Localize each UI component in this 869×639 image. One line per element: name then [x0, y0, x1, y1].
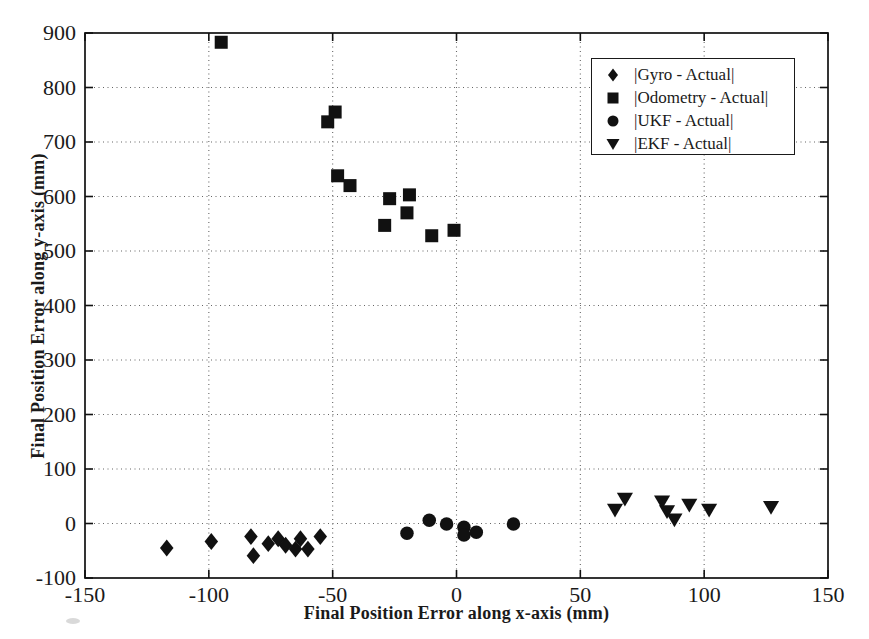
ekf-point [701, 504, 717, 518]
y-tick-label: 800 [43, 75, 76, 100]
gyro-point [160, 540, 174, 557]
figure: -150-100-50050100150-1000100200300400500… [0, 0, 869, 639]
y-tick-label: 0 [65, 511, 76, 536]
odometry-point [215, 36, 228, 49]
odometry-point [329, 106, 342, 119]
legend-label: |UKF - Actual| [634, 111, 733, 131]
legend-item-ukf: |UKF - Actual| [605, 109, 794, 132]
legend-label: |Odometry - Actual| [634, 88, 768, 108]
y-tick-label: 100 [43, 456, 76, 481]
triangle-down-marker-icon [605, 136, 621, 152]
odometry-point [448, 224, 461, 237]
gyro-point [244, 528, 258, 545]
odometry-point [403, 188, 416, 201]
legend-label: |EKF - Actual| [634, 134, 731, 154]
odometry-point [331, 169, 344, 182]
x-axis-label: Final Position Error along x-axis (mm) [85, 603, 828, 624]
series-gyro [160, 528, 327, 564]
legend-item-gyro: |Gyro - Actual| [605, 63, 794, 86]
odometry-point [383, 192, 396, 205]
series-odometry [215, 36, 461, 242]
ukf-point [457, 528, 471, 542]
series-ekf [607, 493, 779, 527]
ukf-point [470, 525, 484, 539]
odometry-point [425, 229, 438, 242]
odometry-point [378, 219, 391, 232]
scan-smudge [66, 618, 80, 624]
series-ukf [400, 513, 520, 541]
legend-item-ekf: |EKF - Actual| [605, 132, 794, 155]
circle-marker-icon [605, 113, 621, 129]
y-tick-label: 700 [43, 129, 76, 154]
ekf-point [681, 499, 697, 513]
legend: |Gyro - Actual| |Odometry - Actual| |UKF… [591, 58, 795, 155]
square-marker-icon [605, 90, 621, 106]
ekf-point [607, 504, 623, 518]
odometry-point [344, 179, 357, 192]
odometry-point [400, 206, 413, 219]
legend-item-odometry: |Odometry - Actual| [605, 86, 794, 109]
gyro-point [314, 528, 328, 545]
ukf-point [400, 527, 414, 541]
ekf-point [666, 513, 682, 527]
y-tick-label: 900 [43, 20, 76, 45]
ukf-point [507, 517, 521, 531]
gyro-point [205, 533, 219, 550]
ukf-point [440, 517, 454, 531]
ukf-point [422, 513, 436, 527]
gyro-point [247, 547, 261, 564]
legend-label: |Gyro - Actual| [634, 65, 734, 85]
diamond-marker-icon [605, 67, 621, 83]
ekf-point [763, 501, 779, 515]
y-axis-label: Final Position Error along y-axis (mm) [28, 153, 49, 458]
y-tick-label: -100 [36, 565, 76, 590]
